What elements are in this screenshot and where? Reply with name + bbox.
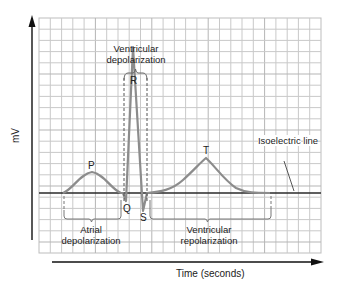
- q-wave-label: Q: [123, 203, 131, 214]
- ventricular-depolarization-label: Ventricular depolarization: [104, 43, 168, 65]
- ventricular-repolarization-label: Ventricular repolarization: [176, 224, 242, 246]
- y-axis-label: mV: [10, 128, 21, 143]
- ventricular-repolarization-line1: Ventricular: [176, 224, 242, 235]
- ventricular-depolarization-line2: depolarization: [104, 54, 168, 65]
- s-wave-label: S: [140, 212, 147, 223]
- x-axis-label: Time (seconds): [176, 268, 245, 279]
- ecg-diagram: mV Time (seconds) P Q R S T Ventricular …: [0, 0, 342, 284]
- t-wave-label: T: [203, 145, 209, 156]
- x-axis: [52, 259, 324, 266]
- arrow-right-icon: [311, 259, 324, 266]
- atrial-depolarization-line1: Atrial: [58, 224, 124, 235]
- y-axis: [29, 15, 36, 240]
- atrial-depolarization-label: Atrial depolarization: [58, 224, 124, 246]
- arrow-up-icon: [29, 15, 36, 27]
- ventricular-depolarization-line1: Ventricular: [104, 43, 168, 54]
- r-wave-label: R: [130, 75, 137, 86]
- atrial-depolarization-line2: depolarization: [58, 235, 124, 246]
- ventricular-repolarization-line2: repolarization: [176, 235, 242, 246]
- isoelectric-line2: line: [303, 135, 318, 146]
- isoelectric-line1: Isoelectric: [258, 135, 301, 146]
- isoelectric-line-label: Isoelectric line: [257, 135, 319, 146]
- p-wave-label: P: [88, 160, 95, 171]
